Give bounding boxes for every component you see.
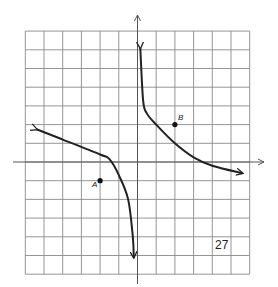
point-b-label: B [178,113,183,122]
figure-number: 27 [215,238,228,252]
point-a-label: A [92,180,97,189]
right-branch-curve [140,48,242,173]
point-b [172,122,177,127]
hyperbola-graph [0,0,278,287]
point-a [98,178,103,183]
